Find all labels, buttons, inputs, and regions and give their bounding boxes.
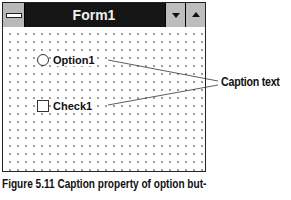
option1-caption: Option1 <box>53 54 97 66</box>
form-window: Form1 Option1 Check1 <box>2 2 206 172</box>
maximize-up-arrow-icon <box>192 12 200 17</box>
window-title: Form1 <box>25 3 163 27</box>
figure-caption: Figure 5.11 Caption property of option b… <box>2 177 206 191</box>
title-bar[interactable]: Form1 <box>3 3 205 27</box>
minimize-button[interactable] <box>165 3 185 27</box>
check1-caption: Check1 <box>53 100 94 112</box>
radio-circle-icon[interactable] <box>37 54 49 66</box>
minimize-down-arrow-icon <box>172 13 180 18</box>
system-menu-button[interactable] <box>3 3 25 27</box>
checkbox-square-icon[interactable] <box>37 100 49 112</box>
system-menu-icon <box>6 13 22 18</box>
maximize-button[interactable] <box>185 3 205 27</box>
form-design-grid[interactable]: Option1 Check1 <box>3 27 205 171</box>
caption-text-callout: Caption text <box>221 74 280 89</box>
checkbox-check1[interactable]: Check1 <box>37 100 94 112</box>
option-button-option1[interactable]: Option1 <box>37 54 97 66</box>
